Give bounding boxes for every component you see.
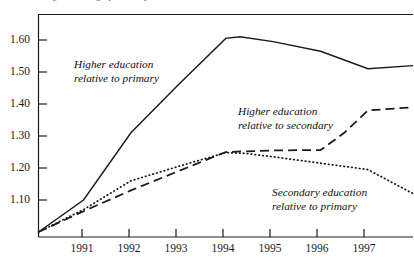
- y-axis-ticks: [39, 40, 48, 200]
- annotation-higher-primary-line1: Higher education: [74, 58, 159, 72]
- line-chart-plot: [0, 0, 414, 264]
- figure-container: Figure 3. Wage premia by education level: [0, 0, 414, 264]
- annotation-secondary-primary-line1: Secondary education: [272, 186, 367, 200]
- x-axis-label-1994: 1994: [203, 242, 243, 254]
- y-axis-label-1.50: 1.50: [0, 65, 30, 77]
- y-axis-label-1.20: 1.20: [0, 161, 30, 173]
- x-axis-label-1993: 1993: [156, 242, 196, 254]
- series-line-higher-relative-to-secondary: [39, 107, 414, 232]
- x-axis-label-1991: 1991: [62, 242, 102, 254]
- annotation-higher-relative-to-secondary: Higher education relative to secondary: [238, 105, 333, 132]
- annotation-secondary-relative-to-primary: Secondary education relative to primary: [272, 186, 367, 213]
- x-axis-label-1996: 1996: [297, 242, 337, 254]
- y-axis-label-1.40: 1.40: [0, 97, 30, 109]
- x-axis-label-1995: 1995: [250, 242, 290, 254]
- y-axis-label-1.30: 1.30: [0, 129, 30, 141]
- annotation-higher-relative-to-primary: Higher education relative to primary: [74, 58, 159, 85]
- x-axis-label-1997: 1997: [344, 242, 384, 254]
- annotation-higher-secondary-line2: relative to secondary: [238, 119, 333, 133]
- x-axis-ticks: [82, 229, 364, 237]
- annotation-higher-secondary-line1: Higher education: [238, 105, 333, 119]
- y-axis-label-1.60: 1.60: [0, 33, 30, 45]
- y-axis-label-1.10: 1.10: [0, 193, 30, 205]
- x-axis-label-1992: 1992: [109, 242, 149, 254]
- annotation-higher-primary-line2: relative to primary: [74, 72, 159, 86]
- annotation-secondary-primary-line2: relative to primary: [272, 200, 367, 214]
